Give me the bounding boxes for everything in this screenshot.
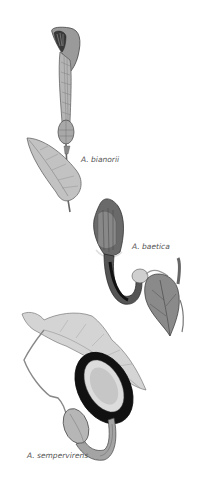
illustration — [0, 0, 209, 492]
specimen-bianorii-illustration — [27, 27, 81, 212]
specimen-baetica-illustration — [94, 199, 184, 336]
species-label-bianorii: A. bianorii — [81, 155, 119, 164]
botanical-plate: A. bianorii A. baetica A. sempervirens — [0, 0, 209, 492]
species-label-baetica: A. baetica — [132, 242, 170, 251]
specimen-sempervirens-illustration — [22, 312, 146, 460]
species-label-sempervirens: A. sempervirens — [27, 451, 88, 460]
